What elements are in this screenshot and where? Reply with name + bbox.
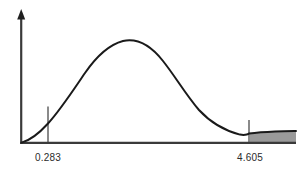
tick-label-lower: 0.283 (35, 152, 61, 163)
density-curve (22, 40, 297, 142)
tick-label-upper: 4.605 (237, 152, 263, 163)
density-curve-figure: 0.283 4.605 (0, 0, 306, 173)
y-axis-arrow-icon (17, 9, 25, 20)
plot-area (0, 0, 306, 173)
